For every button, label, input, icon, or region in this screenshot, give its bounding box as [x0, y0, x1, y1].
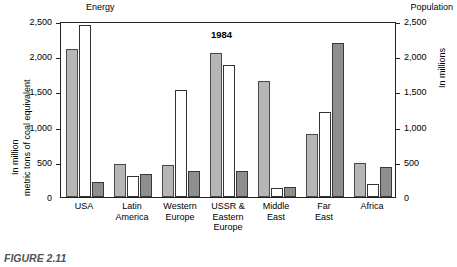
plot-area: 1984 [60, 22, 396, 198]
bar [258, 81, 270, 197]
bar [236, 171, 248, 197]
bar [306, 134, 318, 197]
y-axis-tick-left [56, 58, 61, 59]
bar [92, 182, 104, 197]
bar [175, 90, 187, 197]
bar [140, 174, 152, 197]
y-axis-tick-left [56, 23, 61, 24]
bar [79, 25, 91, 197]
y-axis-tick-right [395, 129, 400, 130]
left-axis-heading: Energy [86, 2, 115, 13]
year-annotation: 1984 [211, 29, 232, 40]
y-axis-tick-label-left: 2,000 [12, 53, 52, 62]
bar [210, 53, 222, 197]
y-axis-tick-label-right: 500 [404, 159, 444, 168]
bar [319, 112, 331, 197]
y-axis-tick-right [395, 164, 400, 165]
bar [367, 184, 379, 197]
y-axis-tick-left [56, 93, 61, 94]
y-axis-tick-label-left: 2,500 [12, 18, 52, 27]
bar [162, 165, 174, 197]
bar [66, 49, 78, 197]
bar [127, 176, 139, 197]
bar [271, 188, 283, 197]
y-axis-tick-right [395, 93, 400, 94]
left-axis-title-line1: In million [10, 139, 20, 175]
y-axis-tick-left [56, 164, 61, 165]
chart-container: Energy Population In million metric tons… [0, 0, 457, 267]
bar [188, 171, 200, 197]
y-axis-tick-label-left: 0 [12, 194, 52, 203]
x-axis-category-label: Africa [342, 201, 402, 212]
left-axis-title: In million [10, 139, 20, 175]
y-axis-tick-label-left: 1,500 [12, 88, 52, 97]
y-axis-tick-label-right: 1,500 [404, 88, 444, 97]
bar [380, 167, 392, 197]
right-axis-heading: Population [410, 2, 453, 13]
figure-caption: FIGURE 2.11 [4, 252, 66, 264]
bar [223, 65, 235, 197]
y-axis-tick-label-left: 1,000 [12, 124, 52, 133]
y-axis-tick-label-right: 0 [404, 194, 444, 203]
y-axis-tick-label-left: 500 [12, 159, 52, 168]
bar [354, 163, 366, 197]
y-axis-tick-label-right: 2,500 [404, 18, 444, 27]
y-axis-tick-right [395, 58, 400, 59]
y-axis-tick-right [395, 23, 400, 24]
bar [284, 187, 296, 197]
y-axis-tick-label-right: 1,000 [404, 124, 444, 133]
bar [114, 164, 126, 197]
y-axis-tick-label-right: 2,000 [404, 53, 444, 62]
y-axis-tick-left [56, 129, 61, 130]
bar [332, 43, 344, 197]
